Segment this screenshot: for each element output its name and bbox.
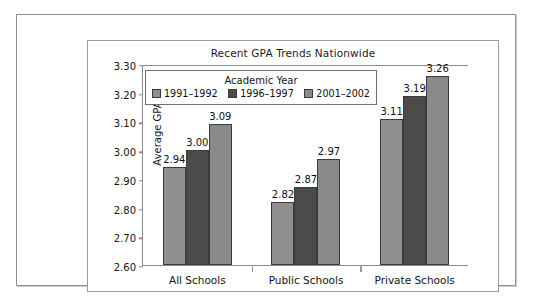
bar-column: 3.11 bbox=[380, 66, 403, 265]
legend-item-label: 2001–2002 bbox=[316, 88, 370, 99]
legend-item-label: 1996–1997 bbox=[240, 88, 294, 99]
bar-value-label: 3.00 bbox=[186, 137, 208, 148]
bar[interactable] bbox=[317, 159, 340, 265]
x-axis-separator bbox=[360, 265, 361, 272]
legend-title: Academic Year bbox=[152, 75, 370, 86]
chart-title: Recent GPA Trends Nationwide bbox=[88, 47, 498, 59]
legend-item[interactable]: 1996–1997 bbox=[228, 88, 294, 99]
bar-value-label: 3.11 bbox=[381, 106, 403, 117]
y-tick-label: 3.20 bbox=[99, 89, 143, 100]
bar-value-label: 2.94 bbox=[163, 154, 185, 165]
bar-value-label: 3.19 bbox=[404, 83, 426, 94]
bar[interactable] bbox=[403, 96, 426, 265]
legend-swatch-icon bbox=[152, 89, 161, 98]
bar-value-label: 3.09 bbox=[209, 111, 231, 122]
bar[interactable] bbox=[163, 167, 186, 265]
bar-column: 3.19 bbox=[403, 66, 426, 265]
bar[interactable] bbox=[426, 76, 449, 266]
plot-area: Average GPA 3.303.203.103.002.902.802.70… bbox=[142, 65, 468, 266]
legend-swatch-icon bbox=[304, 89, 313, 98]
chart-inner-frame: Recent GPA Trends Nationwide Average GPA… bbox=[87, 40, 499, 292]
bar[interactable] bbox=[294, 187, 317, 265]
y-tick-label: 2.80 bbox=[99, 204, 143, 215]
bar-value-label: 2.82 bbox=[272, 189, 294, 200]
y-tick-label: 3.30 bbox=[99, 61, 143, 72]
legend-items: 1991–19921996–19972001–2002 bbox=[152, 88, 370, 99]
chart-legend: Academic Year 1991–19921996–19972001–200… bbox=[145, 70, 377, 105]
x-axis-separator bbox=[252, 265, 253, 272]
y-tick-label: 2.70 bbox=[99, 233, 143, 244]
bar-value-label: 3.26 bbox=[427, 63, 449, 74]
bar-column: 3.26 bbox=[426, 66, 449, 265]
y-tick-label: 3.10 bbox=[99, 118, 143, 129]
legend-item-label: 1991–1992 bbox=[164, 88, 218, 99]
y-tick-label: 2.60 bbox=[99, 262, 143, 273]
legend-swatch-icon bbox=[228, 89, 237, 98]
x-category-label: Public Schools bbox=[269, 274, 344, 286]
x-category-label: Private Schools bbox=[375, 274, 455, 286]
bar[interactable] bbox=[209, 124, 232, 265]
bar-value-label: 2.87 bbox=[295, 174, 317, 185]
legend-item[interactable]: 2001–2002 bbox=[304, 88, 370, 99]
y-tick-label: 2.90 bbox=[99, 175, 143, 186]
bar[interactable] bbox=[271, 202, 294, 265]
bar[interactable] bbox=[380, 119, 403, 265]
y-tick-label: 3.00 bbox=[99, 147, 143, 158]
legend-item[interactable]: 1991–1992 bbox=[152, 88, 218, 99]
y-tick-mark bbox=[139, 266, 143, 267]
x-category-label: All Schools bbox=[169, 274, 226, 286]
bar-value-label: 2.97 bbox=[318, 146, 340, 157]
figure-outer-frame: Recent GPA Trends Nationwide Average GPA… bbox=[16, 14, 516, 286]
bar[interactable] bbox=[186, 150, 209, 265]
